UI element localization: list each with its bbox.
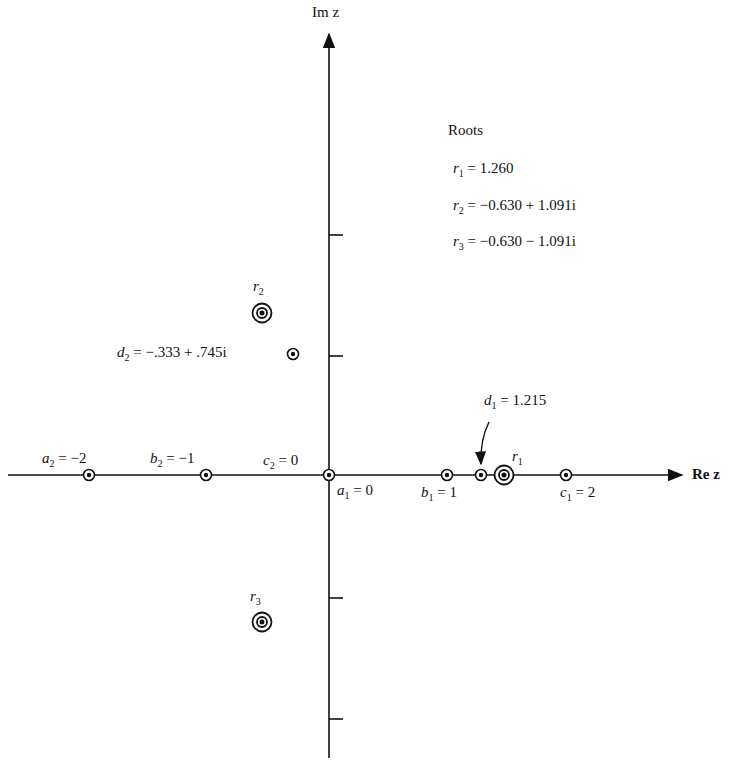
root-line-1: r1 = 1.260 — [453, 160, 514, 179]
real-axis-label: Re z — [692, 466, 720, 483]
point-c1 — [561, 470, 572, 481]
root-r3 — [253, 613, 272, 632]
label-b1: b1 = 1 — [421, 484, 457, 503]
label-r2: r2 — [253, 278, 264, 297]
root-line-2: r2 = −0.630 + 1.091i — [453, 197, 576, 216]
root-line-3: r3 = −0.630 − 1.091i — [453, 233, 576, 252]
label-r3: r3 — [250, 588, 261, 607]
roots-title: Roots — [448, 122, 483, 139]
point-d1 — [476, 470, 487, 481]
label-c2: c2 = 0 — [263, 452, 298, 471]
complex-plane — [0, 0, 729, 763]
point-origin — [324, 470, 335, 481]
point-d2 — [288, 349, 299, 360]
point-a2 — [84, 470, 95, 481]
label-a1: a1 = 0 — [337, 482, 373, 501]
root-r1 — [495, 466, 514, 485]
point-b1 — [442, 470, 453, 481]
point-b2 — [201, 470, 212, 481]
label-c1: c1 = 2 — [560, 484, 595, 503]
imag-axis-label: Im z — [312, 4, 339, 21]
label-r1: r1 — [512, 448, 523, 467]
label-d1: d1 = 1.215 — [484, 392, 546, 411]
label-d2: d2 = −.333 + .745i — [117, 344, 227, 363]
root-r2 — [253, 304, 272, 323]
d1-pointer-arrow — [481, 422, 489, 464]
label-b2: b2 = −1 — [150, 450, 194, 469]
label-a2: a2 = −2 — [42, 450, 86, 469]
